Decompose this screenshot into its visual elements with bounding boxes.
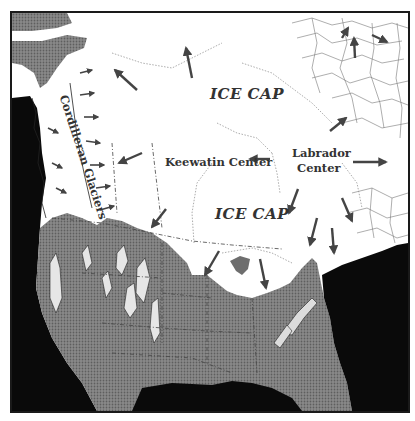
arrow-n-3 — [354, 38, 355, 58]
label-ice-cap-north: ICE CAP — [210, 85, 284, 103]
label-keewatin-center: Keewatin Center — [165, 155, 272, 169]
map-frame: ICE CAP ICE CAP Keewatin Center Labrador… — [10, 11, 410, 413]
label-ice-cap-south: ICE CAP — [215, 205, 289, 223]
label-labrador-center-line1: Labrador — [292, 146, 351, 160]
label-labrador-center-line2: Center — [297, 161, 341, 175]
ice-age-map — [12, 13, 408, 411]
